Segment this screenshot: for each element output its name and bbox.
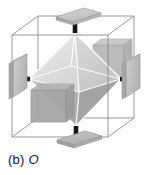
- caption-symbol: O: [29, 152, 39, 167]
- plate-top-outer: [56, 8, 101, 25]
- plate-front-inner: [31, 84, 74, 122]
- octahedral-symmetry-figure: [0, 0, 153, 175]
- plate-bottom-outer: [57, 131, 102, 148]
- figure-caption: (b)O: [8, 152, 39, 167]
- caption-label: (b): [8, 152, 25, 167]
- figure-container: (b)O: [0, 0, 153, 175]
